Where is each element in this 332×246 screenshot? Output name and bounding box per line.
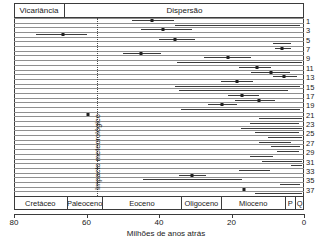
row-separator xyxy=(14,93,304,94)
epoch-cell-p: P xyxy=(285,197,295,210)
x-axis-tick-label: 40 xyxy=(155,219,164,227)
row-number-label: 1 xyxy=(306,18,310,26)
epoch-label: Eoceno xyxy=(129,200,154,208)
row-separator xyxy=(14,187,304,188)
row-number-label: 9 xyxy=(306,55,310,63)
range-whisker xyxy=(241,128,303,129)
range-whisker xyxy=(262,161,302,162)
row-separator xyxy=(14,37,304,38)
range-whisker xyxy=(255,132,299,133)
x-axis-tick-label: 60 xyxy=(82,219,91,227)
x-axis-tick-label: 80 xyxy=(10,219,19,227)
point-estimate-marker xyxy=(270,71,273,74)
row-separator xyxy=(14,121,304,122)
row-separator xyxy=(14,126,304,127)
range-whisker xyxy=(143,179,243,180)
row-number-label: 7 xyxy=(306,46,310,54)
row-separator xyxy=(14,112,304,113)
row-separator xyxy=(14,84,304,85)
row-number-label: 15 xyxy=(306,84,314,92)
point-estimate-marker xyxy=(150,19,153,22)
range-whisker xyxy=(271,146,300,147)
row-number-label: 5 xyxy=(306,37,310,45)
row-separator xyxy=(14,135,304,136)
chart-figure: Vicariância Dispersão Impacto meteorológ… xyxy=(0,0,332,246)
row-number-label: 19 xyxy=(306,102,314,110)
range-whisker xyxy=(277,151,299,152)
epoch-label: Oligoceno xyxy=(184,200,218,208)
row-separator xyxy=(14,173,304,174)
epoch-cell-q: Q xyxy=(295,197,304,210)
row-separator xyxy=(14,46,304,47)
row-separator xyxy=(14,32,304,33)
point-estimate-marker xyxy=(61,33,64,36)
range-whisker xyxy=(239,170,270,171)
range-whisker xyxy=(181,109,301,110)
row-number-label: 31 xyxy=(306,159,314,167)
point-estimate-marker xyxy=(226,56,229,59)
row-number-label: 13 xyxy=(306,74,314,82)
row-separator xyxy=(14,116,304,117)
epoch-label: P xyxy=(288,200,293,208)
x-axis-tick-label: 20 xyxy=(227,219,236,227)
epoch-label: Mioceno xyxy=(239,200,267,208)
row-separator xyxy=(14,140,304,141)
row-separator xyxy=(14,177,304,178)
epoch-band: CretáceoPaleocenoEocenoOligocenoMiocenoP… xyxy=(14,196,304,210)
range-whisker xyxy=(177,62,302,63)
point-estimate-marker xyxy=(221,103,224,106)
point-estimate-marker xyxy=(241,94,244,97)
row-number-label: 3 xyxy=(306,27,310,35)
range-whisker xyxy=(250,123,299,124)
row-separator xyxy=(14,163,304,164)
row-separator xyxy=(14,18,304,19)
point-estimate-marker xyxy=(235,80,238,83)
range-whisker xyxy=(280,184,300,185)
row-separator xyxy=(14,55,304,56)
epoch-cell-eoceno: Eoceno xyxy=(102,197,181,210)
row-separator xyxy=(14,130,304,131)
row-number-label: 27 xyxy=(306,140,314,148)
x-axis-tick-label: 0 xyxy=(302,219,306,227)
range-whisker xyxy=(141,29,192,30)
range-whisker xyxy=(291,165,302,166)
row-separator xyxy=(14,154,304,155)
x-axis-title: Milhões de anos atrás xyxy=(0,230,332,238)
range-whisker xyxy=(259,142,292,143)
row-separator xyxy=(14,79,304,80)
row-separator xyxy=(14,102,304,103)
row-separator xyxy=(14,51,304,52)
epoch-cell-cretáceo: Cretáceo xyxy=(14,197,67,210)
range-whisker xyxy=(175,25,300,26)
row-number-label: 29 xyxy=(306,149,314,157)
row-separator xyxy=(14,60,304,61)
range-whisker xyxy=(159,39,195,40)
data-rows xyxy=(14,18,304,196)
range-whisker xyxy=(255,193,302,194)
point-estimate-marker xyxy=(161,28,164,31)
header-vicariance-label: Vicariância xyxy=(20,7,59,15)
row-number-label: 37 xyxy=(306,187,314,195)
row-separator xyxy=(14,65,304,66)
row-number-column: 135791113151719212325272931333537 xyxy=(306,18,332,196)
point-estimate-marker xyxy=(190,174,193,177)
row-separator xyxy=(14,107,304,108)
row-separator xyxy=(14,159,304,160)
impact-marker-label: Impacto meteorológico xyxy=(94,114,102,190)
epoch-cell-paleoceno: Paleoceno xyxy=(67,197,102,210)
row-number-label: 17 xyxy=(306,93,314,101)
epoch-label: Paleoceno xyxy=(67,200,102,208)
row-separator xyxy=(14,98,304,99)
range-whisker xyxy=(273,43,291,44)
row-number-label: 11 xyxy=(306,65,314,73)
range-whisker xyxy=(235,100,275,101)
row-separator xyxy=(14,191,304,192)
point-estimate-marker xyxy=(257,99,260,102)
point-estimate-marker xyxy=(174,38,177,41)
epoch-label: Cretáceo xyxy=(25,200,55,208)
point-estimate-marker xyxy=(139,52,142,55)
point-estimate-marker xyxy=(87,113,90,116)
row-separator xyxy=(14,27,304,28)
header-dispersal: Dispersão xyxy=(65,3,304,18)
row-number-label: 33 xyxy=(306,168,314,176)
